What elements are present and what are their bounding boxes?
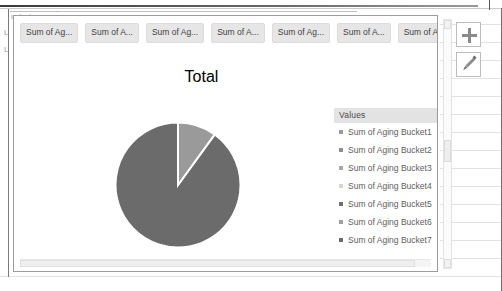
legend-swatch-icon (339, 130, 343, 134)
chart-legend[interactable]: Values Sum of Aging Bucket1 Sum of Aging… (334, 108, 437, 249)
legend-swatch-icon (339, 148, 343, 152)
chart-elements-button[interactable] (456, 22, 481, 47)
legend-swatch-icon (339, 220, 343, 224)
chart-tool-buttons (456, 22, 482, 82)
legend-title[interactable]: Values (334, 108, 437, 123)
legend-swatch-icon (339, 166, 343, 170)
pivot-field-button[interactable]: Sum of Ag... (146, 23, 204, 43)
plus-icon (462, 34, 477, 37)
vertical-scrollbar[interactable] (443, 19, 452, 269)
chart-title[interactable]: Total (185, 68, 219, 85)
legend-item[interactable]: Sum of Aging Bucket5 (334, 195, 437, 213)
legend-list: Sum of Aging Bucket1 Sum of Aging Bucket… (334, 123, 437, 249)
legend-swatch-icon (339, 202, 343, 206)
pivot-field-button-bar: Sum of Ag... Sum of A... Sum of Ag... Su… (20, 23, 431, 42)
pivot-field-button[interactable]: Sum of Ag... (398, 23, 437, 43)
excel-pivot-chart-screen: uckets L L Sum of Ag... Sum of A... Sum … (0, 0, 502, 291)
legend-item-label: Sum of Aging Bucket7 (348, 235, 432, 245)
legend-item-label: Sum of Aging Bucket2 (348, 145, 432, 155)
vertical-scrollbar-thumb[interactable] (444, 140, 451, 162)
legend-item-label: Sum of Aging Bucket5 (348, 199, 432, 209)
top-right-tick (489, 0, 490, 10)
legend-item-label: Sum of Aging Bucket1 (348, 127, 432, 137)
top-divider-secondary (0, 8, 502, 9)
chart-title-wrap: Total (109, 68, 294, 86)
scroll-up-button[interactable] (444, 20, 451, 29)
pivot-field-button[interactable]: Sum of Ag... (272, 23, 330, 43)
ghost-rule (57, 11, 357, 12)
pivot-field-button[interactable]: Sum of Ag... (20, 23, 78, 43)
legend-item-label: Sum of Aging Bucket3 (348, 163, 432, 173)
row-header-divider (8, 9, 9, 277)
legend-item[interactable]: Sum of Aging Bucket6 (334, 213, 437, 231)
pivot-field-button[interactable]: Sum of A... (337, 23, 391, 43)
legend-item-label: Sum of Aging Bucket4 (348, 181, 432, 191)
horizontal-scrollbar-thumb[interactable] (20, 260, 415, 267)
pie-chart-svg[interactable] (76, 98, 281, 271)
pivot-chart-object[interactable]: Sum of Ag... Sum of A... Sum of Ag... Su… (13, 15, 438, 272)
legend-item[interactable]: Sum of Aging Bucket2 (334, 141, 437, 159)
legend-item[interactable]: Sum of Aging Bucket7 (334, 231, 437, 249)
paintbrush-icon (457, 53, 480, 76)
pivot-field-button[interactable]: Sum of A... (211, 23, 265, 43)
legend-item-label: Sum of Aging Bucket6 (348, 217, 432, 227)
pivot-field-button[interactable]: Sum of A... (85, 23, 139, 43)
ghost-rule (10, 11, 58, 12)
legend-item[interactable]: Sum of Aging Bucket3 (334, 159, 437, 177)
legend-item[interactable]: Sum of Aging Bucket4 (334, 177, 437, 195)
grid-line (0, 276, 502, 277)
legend-item[interactable]: Sum of Aging Bucket1 (334, 123, 437, 141)
pie-plot-area[interactable] (76, 98, 281, 271)
chart-styles-button[interactable] (456, 52, 481, 77)
scroll-down-button[interactable] (444, 259, 451, 268)
top-divider (0, 5, 478, 7)
legend-swatch-icon (339, 184, 343, 188)
horizontal-scrollbar[interactable] (20, 259, 431, 267)
legend-swatch-icon (339, 238, 343, 242)
